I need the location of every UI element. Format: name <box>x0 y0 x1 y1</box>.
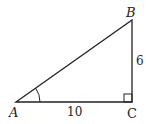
triangle-abc <box>16 20 132 102</box>
side-label-bc: 6 <box>136 54 144 68</box>
side-label-ac: 10 <box>67 105 82 119</box>
right-angle-mark <box>124 94 132 102</box>
vertex-label-c: C <box>127 106 137 121</box>
triangle-diagram: B A C 6 10 <box>0 0 146 124</box>
vertex-label-b: B <box>125 5 136 20</box>
vertex-label-a: A <box>8 105 18 120</box>
angle-a-arc <box>36 88 40 102</box>
triangle-figure: B A C 6 10 <box>0 0 146 124</box>
